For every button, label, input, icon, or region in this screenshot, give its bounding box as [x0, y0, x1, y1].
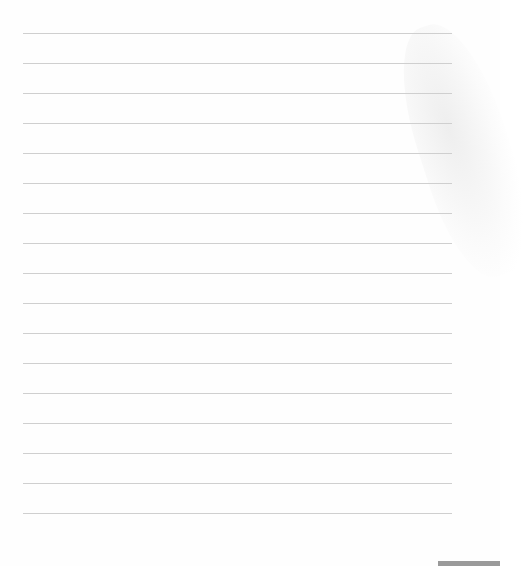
ruled-line [23, 33, 452, 34]
ruled-line [23, 153, 452, 154]
ruled-line [23, 453, 452, 454]
ruled-line [23, 63, 452, 64]
ruled-line [23, 423, 452, 424]
ruled-line [23, 93, 452, 94]
ruled-line [23, 363, 452, 364]
ruled-line [23, 273, 452, 274]
floral-watermark-icon [382, 12, 527, 287]
ruled-line [23, 213, 452, 214]
ruled-line [23, 123, 452, 124]
bottom-edge-bar [438, 561, 500, 566]
ruled-line [23, 183, 452, 184]
ruled-line [23, 243, 452, 244]
ruled-line [23, 303, 452, 304]
ruled-line [23, 513, 452, 514]
ruled-line [23, 393, 452, 394]
ruled-line [23, 483, 452, 484]
ruled-line [23, 333, 452, 334]
